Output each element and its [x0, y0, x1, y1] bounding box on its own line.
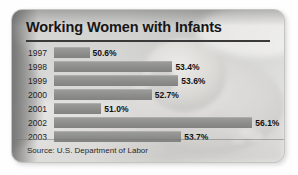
bar — [54, 131, 181, 142]
card-content: Working Women with Infants 1997 50.6% 19… — [12, 10, 284, 162]
bar-value-label: 53.4% — [175, 62, 199, 72]
row-year-label: 2002 — [28, 118, 47, 128]
bar — [54, 89, 152, 100]
row-year-label: 2000 — [28, 90, 47, 100]
table-row: 1997 50.6% — [12, 46, 284, 60]
title-divider — [26, 40, 270, 42]
bar — [54, 117, 252, 128]
bar — [54, 47, 90, 58]
bar-value-label: 53.6% — [181, 76, 205, 86]
table-row: 1998 53.4% — [12, 60, 284, 74]
row-year-label: 2001 — [28, 104, 47, 114]
bar-track: 52.7% — [54, 89, 276, 100]
bar — [54, 61, 172, 72]
bar-track: 53.4% — [54, 61, 276, 72]
table-row: 1999 53.6% — [12, 74, 284, 88]
row-year-label: 1999 — [28, 76, 47, 86]
bar — [54, 103, 101, 114]
bar-value-label: 50.6% — [93, 48, 117, 58]
row-year-label: 2003 — [28, 132, 47, 142]
bar-value-label: 52.7% — [155, 90, 179, 100]
bar-chart-rows: 1997 50.6% 1998 53.4% 1999 — [12, 46, 284, 144]
bar-value-label: 53.7% — [184, 132, 208, 142]
bar-track: 51.0% — [54, 103, 276, 114]
table-row: 2003 53.7% — [12, 130, 284, 144]
table-row: 2001 51.0% — [12, 102, 284, 116]
table-row: 2000 52.7% — [12, 88, 284, 102]
bar-value-label: 51.0% — [104, 104, 128, 114]
row-year-label: 1997 — [28, 48, 47, 58]
table-row: 2002 56.1% — [12, 116, 284, 130]
bar — [54, 75, 178, 86]
source-note: Source: U.S. Department of Labor — [27, 146, 148, 155]
chart-title: Working Women with Infants — [26, 19, 222, 35]
bar-track: 53.7% — [54, 131, 276, 142]
source-divider — [12, 139, 284, 140]
screenshot-stage: Working Women with Infants 1997 50.6% 19… — [0, 0, 298, 175]
chart-card: Working Women with Infants 1997 50.6% 19… — [11, 9, 285, 163]
bar-value-label: 56.1% — [255, 118, 279, 128]
row-year-label: 1998 — [28, 62, 47, 72]
bar-track: 53.6% — [54, 75, 276, 86]
bar-track: 56.1% — [54, 117, 276, 128]
bar-track: 50.6% — [54, 47, 276, 58]
